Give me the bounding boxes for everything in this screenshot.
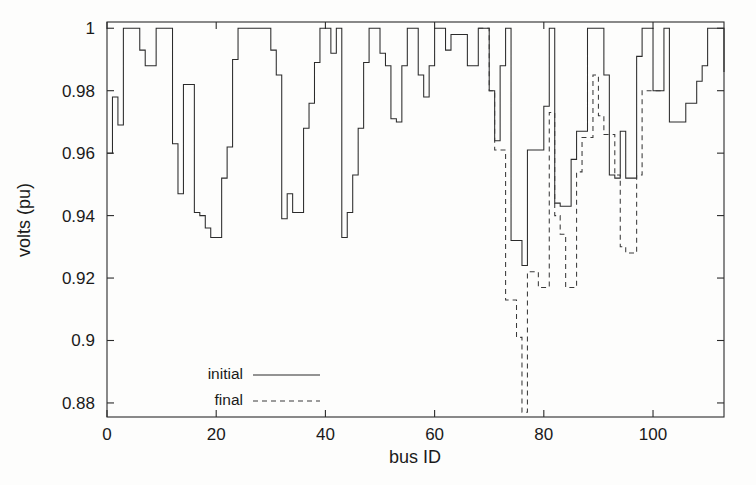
x-ticklabel-60: 60 (425, 425, 444, 444)
voltage-profile-chart: 020406080100 0.880.90.920.940.960.981 in… (0, 0, 756, 485)
y-ticklabel-0.94: 0.94 (62, 207, 95, 226)
x-ticklabel-0: 0 (102, 425, 111, 444)
y-ticklabel-0.96: 0.96 (62, 144, 95, 163)
y-axis-title: volts (pu) (14, 183, 34, 257)
y-ticklabel-0.92: 0.92 (62, 269, 95, 288)
chart-container: 020406080100 0.880.90.920.940.960.981 in… (0, 0, 756, 485)
legend-label-initial: initial (208, 365, 243, 382)
y-ticklabel-1: 1 (86, 19, 95, 38)
x-ticklabel-80: 80 (534, 425, 553, 444)
x-ticklabel-40: 40 (316, 425, 335, 444)
x-ticklabel-100: 100 (639, 425, 667, 444)
x-axis-title: bus ID (389, 447, 441, 467)
y-ticklabel-0.9: 0.9 (71, 331, 95, 350)
chart-background (0, 0, 756, 485)
legend-label-final: final (215, 391, 243, 408)
x-ticklabel-20: 20 (207, 425, 226, 444)
y-ticklabel-0.98: 0.98 (62, 82, 95, 101)
y-ticklabel-0.88: 0.88 (62, 394, 95, 413)
